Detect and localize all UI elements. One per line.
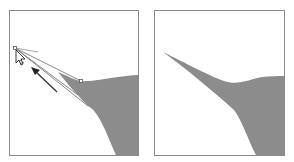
anchor-point xyxy=(80,80,83,83)
shape-after xyxy=(163,52,284,155)
anchor-point-dragged xyxy=(14,47,17,50)
selected-path-outline xyxy=(15,48,88,106)
shape-before xyxy=(58,72,138,155)
illustration-canvas xyxy=(0,0,294,162)
